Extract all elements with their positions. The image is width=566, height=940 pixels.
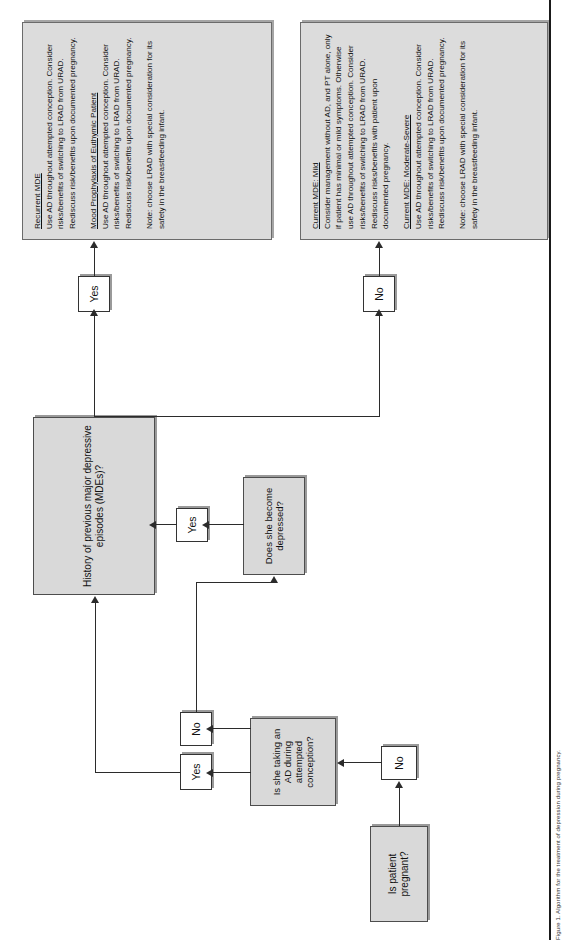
arrowhead: [202, 521, 209, 529]
outcome-heading: Current MDE: Mild: [310, 33, 322, 229]
edge-label-history-no-text: No: [371, 284, 387, 303]
outcome-heading: Recurrent MDE: [32, 33, 44, 229]
edge-depressed-to-yes: [209, 524, 244, 525]
edge-label-depressed-yes-text: Yes: [184, 513, 200, 536]
outcome-body: Consider management without AD, and PT a…: [322, 33, 392, 229]
outcome-section: Current MDE: Mild Consider management wi…: [310, 33, 392, 229]
edge-label-history-yes[interactable]: Yes: [78, 276, 110, 312]
node-history-previous-mdes[interactable]: History of previous major depressive epi…: [33, 417, 155, 595]
flowchart-canvas: Is patient pregnant? No Is she taking an…: [0, 0, 566, 940]
outcome-section: Mood Prophylaxis of Euthymic Patient Use…: [88, 33, 135, 229]
edge-no-to-depressed-v: [196, 582, 274, 583]
figure-caption: Figure 1. Algorithm for the treatment of…: [551, 0, 566, 940]
edge-history-to-yes: [94, 315, 95, 417]
outcome-heading: Mood Prophylaxis of Euthymic Patient: [88, 33, 100, 229]
edge-yes-to-history-v: [95, 772, 181, 773]
edge-taking-ad-to-yes: [213, 772, 251, 773]
edge-yes-to-history-h: [95, 602, 96, 773]
edge-label-pregnant-no[interactable]: No: [381, 746, 417, 780]
edge-history-to-no-v: [94, 416, 379, 417]
node-taking-ad-label: Is she taking an AD during attempted con…: [269, 719, 318, 805]
edge-history-to-no-h: [379, 315, 380, 417]
outcome-section: Current MDE: Moderate-Severe Use AD thro…: [401, 33, 448, 229]
edge-yes-to-euthymic-box: [94, 247, 95, 276]
node-does-she-become-depressed[interactable]: Does she become depressed?: [243, 477, 305, 575]
arrowhead: [395, 781, 403, 788]
arrowhead: [149, 521, 156, 529]
arrowhead: [375, 241, 383, 248]
outcome-note: Note: choose LRAD with special considera…: [144, 33, 167, 229]
outcome-box-current-mde: Current MDE: Mild Consider management wi…: [300, 22, 548, 240]
arrowhead: [206, 769, 213, 777]
arrowhead: [90, 241, 98, 248]
node-is-patient-pregnant[interactable]: Is patient pregnant?: [370, 826, 428, 922]
edge-label-history-no[interactable]: No: [363, 276, 395, 312]
node-history-label: History of previous major depressive epi…: [80, 418, 108, 594]
edge-label-taking-ad-no-text: No: [188, 719, 204, 738]
outcome-box-euthymic: Recurrent MDE Use AD throughout attempte…: [22, 22, 272, 240]
arrowhead: [206, 725, 213, 733]
outcome-heading: Current MDE: Moderate-Severe: [401, 33, 413, 229]
arrowhead: [375, 309, 383, 316]
edge-label-pregnant-no-text: No: [391, 753, 407, 772]
arrowhead: [270, 576, 278, 583]
edge-label-taking-ad-yes-text: Yes: [188, 760, 204, 783]
figure-caption-text: Figure 1. Algorithm for the treatment of…: [555, 748, 562, 940]
outcome-note: Note: choose LRAD with special considera…: [457, 33, 480, 229]
edge-pregnant-to-no: [399, 787, 400, 826]
outcome-body: Use AD throughout attempted conception. …: [413, 33, 448, 229]
edge-no-to-taking-ad: [344, 762, 382, 763]
node-is-patient-pregnant-label: Is patient pregnant?: [385, 827, 413, 921]
outcome-body: Use AD throughout attempted conception. …: [100, 33, 135, 229]
outcome-body: Use AD throughout attempted conception. …: [44, 33, 79, 229]
edge-no-to-depressed: [196, 582, 197, 712]
arrowhead: [90, 309, 98, 316]
arrowhead: [91, 596, 99, 603]
edge-no-to-current-mde-box: [379, 247, 380, 276]
arrowhead: [337, 759, 344, 767]
edge-taking-ad-to-no: [213, 728, 251, 729]
outcome-section: Recurrent MDE Use AD throughout attempte…: [32, 33, 79, 229]
edge-yes-depressed-to-history: [156, 524, 177, 525]
edge-label-history-yes-text: Yes: [86, 282, 102, 305]
node-depressed-label: Does she become depressed?: [261, 478, 287, 574]
node-taking-ad-during-conception[interactable]: Is she taking an AD during attempted con…: [250, 718, 336, 806]
